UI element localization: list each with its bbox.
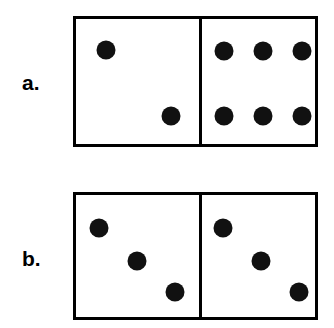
pip [128,252,147,271]
domino-b-half-right [199,195,325,317]
pip [290,283,309,302]
domino-b-half-left [76,195,199,317]
pip [162,107,181,126]
domino-a-half-left [76,19,199,144]
pip [254,42,273,61]
pip [293,42,312,61]
domino-tile-b [73,192,318,320]
pip [97,41,116,60]
domino-a-half-right [199,19,325,144]
pip [293,107,312,126]
pip [254,107,273,126]
pip [215,42,234,61]
pip [215,107,234,126]
pip [90,219,109,238]
pip [252,252,271,271]
domino-label-a: a. [22,72,40,93]
pip [166,283,185,302]
domino-label-b: b. [22,248,41,269]
domino-figure: a.b. [0,0,334,328]
domino-tile-a [73,16,318,147]
pip [214,219,233,238]
